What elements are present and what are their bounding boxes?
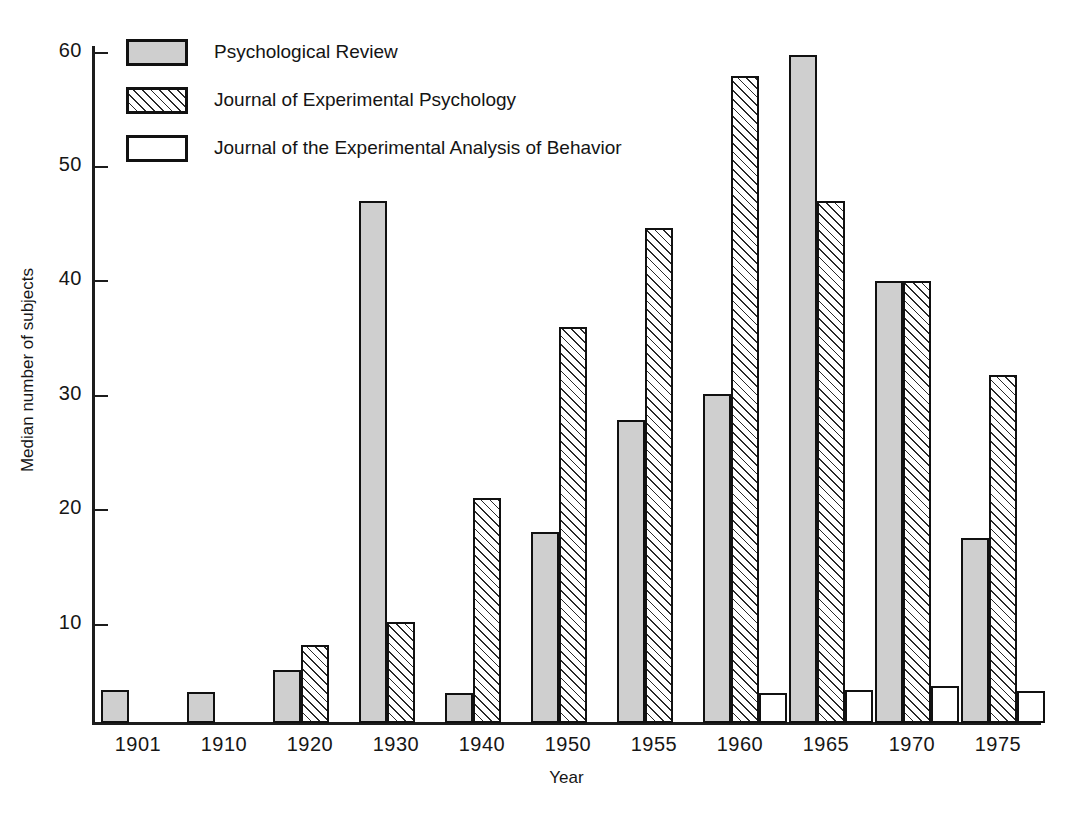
bar-1901-series1 [101, 690, 129, 723]
x-tick-label: 1940 [439, 733, 525, 756]
x-tick-label: 1970 [869, 733, 955, 756]
x-tick-label: 1975 [955, 733, 1041, 756]
bar-1970-series2 [903, 281, 931, 723]
plot-area [0, 0, 1071, 723]
bar-chart: Psychological Review Journal of Experime… [0, 0, 1071, 814]
bar-1940-series2 [473, 498, 501, 723]
bar-1975-series3 [1017, 691, 1045, 723]
x-tick-label: 1930 [353, 733, 439, 756]
x-tick-label: 1950 [525, 733, 611, 756]
bar-1955-series1 [617, 420, 645, 723]
x-tick-label: 1910 [181, 733, 267, 756]
x-axis-title: Year [92, 768, 1041, 788]
bar-1950-series1 [531, 532, 559, 723]
bar-1930-series1 [359, 201, 387, 723]
bar-1960-series3 [759, 693, 787, 723]
bar-1920-series2 [301, 645, 329, 723]
bar-1975-series2 [989, 375, 1017, 723]
bar-1965-series3 [845, 690, 873, 723]
x-tick-label: 1965 [783, 733, 869, 756]
bar-1965-series2 [817, 201, 845, 723]
bar-1955-series2 [645, 228, 673, 723]
bar-1920-series1 [273, 670, 301, 723]
x-tick-label: 1901 [95, 733, 181, 756]
x-tick-label: 1960 [697, 733, 783, 756]
bar-1965-series1 [789, 55, 817, 723]
bar-1910-series1 [187, 692, 215, 723]
bar-1970-series3 [931, 686, 959, 723]
bar-1960-series2 [731, 76, 759, 724]
x-tick-label: 1955 [611, 733, 697, 756]
bar-1930-series2 [387, 622, 415, 723]
bar-1975-series1 [961, 538, 989, 723]
bar-1970-series1 [875, 281, 903, 723]
bar-1960-series1 [703, 394, 731, 723]
bar-1940-series1 [445, 693, 473, 723]
x-tick-label: 1920 [267, 733, 353, 756]
bar-1950-series2 [559, 327, 587, 723]
